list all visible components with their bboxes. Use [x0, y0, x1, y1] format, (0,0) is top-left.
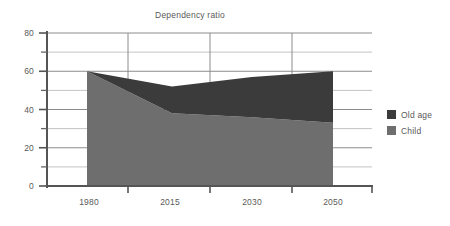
y-tick-label-0: 0: [29, 181, 34, 191]
legend-swatch-child: [387, 126, 396, 135]
legend-label-old-age: Old age: [401, 110, 432, 120]
x-tick-label-2050: 2050: [323, 197, 343, 207]
x-tick-label-1980: 1980: [79, 197, 99, 207]
y-tick-label-60: 60: [24, 66, 34, 76]
y-tick-label-20: 20: [24, 143, 34, 153]
y-tick-label-80: 80: [24, 28, 34, 38]
chart-legend: Old age Child: [387, 109, 449, 141]
y-tick-label-40: 40: [24, 105, 34, 115]
x-axis-ticks: [128, 186, 372, 193]
legend-item-old-age[interactable]: Old age: [387, 109, 449, 120]
x-tick-label-2015: 2015: [160, 197, 180, 207]
x-tick-label-2030: 2030: [242, 197, 262, 207]
legend-swatch-old-age: [387, 110, 396, 119]
y-axis-major-ticks: [39, 33, 47, 186]
legend-label-child: Child: [401, 126, 421, 136]
legend-item-child[interactable]: Child: [387, 125, 449, 136]
chart-figure: Dependency ratio: [0, 0, 450, 226]
dependency-ratio-area-chart: 80 60 40 20 0 1980 2015 2030 2050: [0, 0, 450, 226]
